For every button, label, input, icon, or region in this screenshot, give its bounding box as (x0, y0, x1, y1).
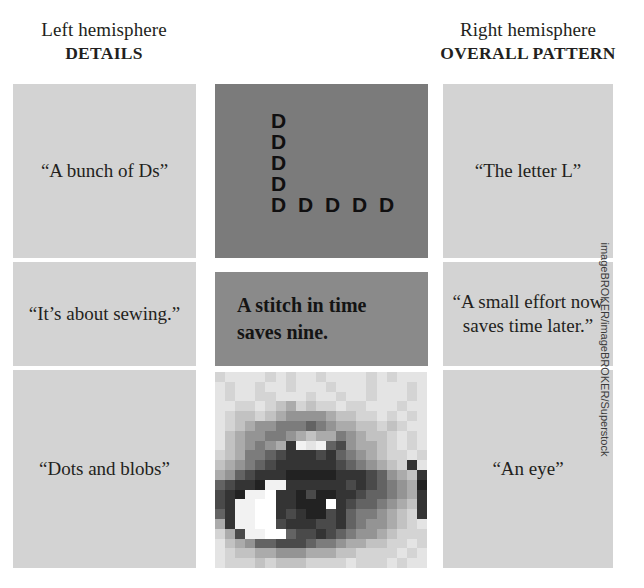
stimulus-proverb-text: A stitch in time saves nine. (215, 272, 428, 366)
d-row-1: D (271, 110, 397, 131)
proverb-lines: A stitch in time saves nine. (237, 292, 366, 346)
right-caption-panel-letters: “The letter L” (443, 84, 613, 258)
right-caption-proverb: “A small effort now saves time later.” (443, 290, 613, 338)
right-caption-panel-eye: “An eye” (443, 370, 613, 568)
stimulus-letter-mosaic: D D D D D D D D D (215, 84, 428, 258)
right-caption-panel-proverb: “A small effort now saves time later.” (443, 262, 613, 366)
left-caption-panel-proverb: “It’s about sewing.” (13, 262, 196, 366)
brain-hemisphere-figure: Left hemisphere DETAILS Right hemisphere… (0, 0, 644, 588)
left-caption-proverb: “It’s about sewing.” (13, 302, 196, 326)
image-credit: imageBROKER/imageBROKER/Superstock (598, 243, 611, 475)
right-hemisphere-subtitle: Right hemisphere (438, 18, 618, 42)
right-caption-letters: “The letter L” (443, 159, 613, 183)
left-hemisphere-subtitle: Left hemisphere (6, 18, 202, 42)
d-row-3: D (271, 152, 397, 173)
left-hemisphere-header: Left hemisphere DETAILS (6, 18, 202, 64)
d-row-5: D D D D D (271, 194, 397, 215)
proverb-line-1: A stitch in time (237, 292, 366, 319)
d-row-2: D (271, 131, 397, 152)
stimulus-pixelated-eye (215, 372, 427, 568)
letter-l-made-of-ds: D D D D D D D D D (271, 110, 397, 215)
eye-mosaic-grid (215, 372, 427, 568)
right-caption-eye: “An eye” (443, 457, 613, 481)
left-caption-letters: “A bunch of Ds” (13, 159, 196, 183)
left-caption-panel-letters: “A bunch of Ds” (13, 84, 196, 258)
left-hemisphere-title: DETAILS (6, 42, 202, 64)
right-hemisphere-title: OVERALL PATTERN (438, 42, 618, 64)
proverb-line-2: saves nine. (237, 319, 366, 346)
right-hemisphere-header: Right hemisphere OVERALL PATTERN (438, 18, 618, 64)
left-caption-eye: “Dots and blobs” (13, 457, 196, 481)
left-caption-panel-eye: “Dots and blobs” (13, 370, 196, 568)
d-row-4: D (271, 173, 397, 194)
